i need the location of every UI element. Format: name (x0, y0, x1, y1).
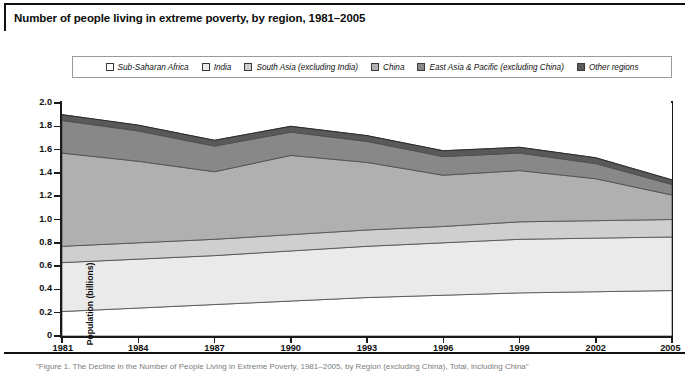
y-axis-tick-label: 0 (47, 330, 52, 340)
bottom-rule (4, 352, 685, 354)
y-axis-tick-label: 1.8 (39, 120, 52, 130)
y-axis-tick-label: 2.0 (39, 97, 52, 107)
x-axis-tick-label: 2005 (660, 343, 680, 353)
legend-item-label: Sub-Saharan Africa (118, 63, 189, 72)
legend-item-label: South Asia (excluding India) (256, 63, 358, 72)
x-axis-line (60, 336, 673, 338)
legend-swatch-icon (371, 63, 379, 71)
y-axis-tick-label: 0.4 (39, 283, 52, 293)
y-axis-tick-label: 1.0 (39, 214, 52, 224)
legend-swatch-icon (417, 63, 425, 71)
plot-area: Population (billions) (62, 103, 672, 336)
legend-item-label: Other regions (589, 63, 639, 72)
y-axis-tick-label: 1.4 (39, 167, 52, 177)
legend-item-label: India (214, 63, 232, 72)
legend-item: Other regions (577, 63, 639, 72)
legend-swatch-icon (244, 63, 252, 71)
top-rule (4, 3, 685, 5)
x-axis-tick-label: 1993 (357, 343, 377, 353)
y-axis-tick-label: 0.6 (39, 260, 52, 270)
legend-item: South Asia (excluding India) (244, 63, 358, 72)
legend-item: East Asia & Pacific (excluding China) (417, 63, 563, 72)
y-axis-tick-label: 1.2 (39, 190, 52, 200)
legend-swatch-icon (106, 63, 114, 71)
legend-item-label: China (383, 63, 404, 72)
x-axis-tick-label: 1984 (128, 343, 148, 353)
y-axis-title: Population (billions) (85, 224, 95, 373)
x-axis-tick-label: 1987 (204, 343, 224, 353)
x-axis-tick-label: 1990 (281, 343, 301, 353)
chart-legend: Sub-Saharan AfricaIndiaSouth Asia (exclu… (72, 56, 672, 78)
legend-item-label: East Asia & Pacific (excluding China) (429, 63, 563, 72)
legend-swatch-icon (202, 63, 210, 71)
y-axis-tick-label: 0.8 (39, 237, 52, 247)
y-axis-tick-label: 0.2 (39, 307, 52, 317)
y-axis-tick-label: 1.6 (39, 144, 52, 154)
page-title: Number of people living in extreme pover… (14, 12, 365, 24)
legend-item: Sub-Saharan Africa (106, 63, 189, 72)
legend-item: India (202, 63, 232, 72)
x-axis-tick-label: 1999 (509, 343, 529, 353)
figure-panel: Number of people living in extreme pover… (0, 0, 688, 373)
stacked-area-series (62, 103, 672, 336)
x-axis-tick-label: 2002 (586, 343, 606, 353)
x-axis-tick-label: 1996 (433, 343, 453, 353)
legend-swatch-icon (577, 63, 585, 71)
source-caption: "Figure 1. The Decline in the Number of … (36, 362, 686, 373)
x-axis-tick-label: 1981 (53, 343, 73, 353)
y-axis-labels: 2.01.81.61.41.21.00.80.60.40.20 (0, 0, 52, 373)
legend-item: China (371, 63, 404, 72)
